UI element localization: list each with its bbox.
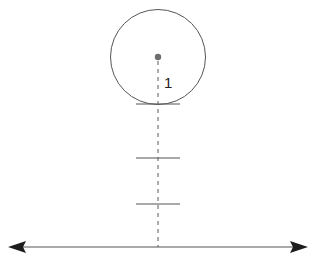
circle-center-dot — [155, 54, 161, 60]
radius-length-label: 1 — [164, 74, 172, 91]
geometry-figure: 1 — [0, 0, 316, 270]
figure-canvas: 1 — [0, 0, 316, 270]
